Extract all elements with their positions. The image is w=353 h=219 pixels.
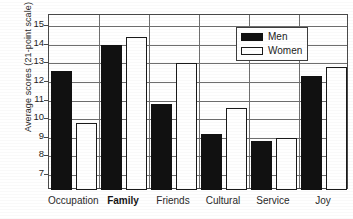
y-tick-label-8: 8 bbox=[26, 149, 44, 159]
y-tick-label-10: 10 bbox=[26, 112, 44, 122]
legend-swatch-women bbox=[241, 47, 263, 55]
group-separator-1 bbox=[99, 15, 100, 188]
x-tick-label-service: Service bbox=[248, 195, 298, 207]
y-tick-label-13: 13 bbox=[26, 56, 44, 66]
y-tick-label-12: 12 bbox=[26, 75, 44, 85]
legend-entry-men: Men bbox=[241, 31, 302, 43]
y-tick-label-15: 15 bbox=[26, 19, 44, 29]
chart-figure: Average scores (21-point scale) Men Wome… bbox=[0, 0, 353, 219]
x-tick-label-friends: Friends bbox=[148, 195, 198, 207]
plot-area: Men Women bbox=[48, 14, 348, 189]
legend: Men Women bbox=[236, 27, 308, 61]
legend-label-men: Men bbox=[268, 32, 287, 42]
group-separator-3 bbox=[199, 15, 200, 188]
legend-swatch-men bbox=[241, 33, 263, 41]
y-tick-label-14: 14 bbox=[26, 38, 44, 48]
x-tick-label-occupation: Occupation bbox=[48, 195, 98, 207]
legend-label-women: Women bbox=[268, 46, 302, 56]
y-tick-label-11: 11 bbox=[26, 94, 44, 104]
legend-entry-women: Women bbox=[241, 45, 302, 57]
x-tick-label-joy: Joy bbox=[298, 195, 348, 207]
y-tick-label-7: 7 bbox=[26, 168, 44, 178]
x-tick-label-cultural: Cultural bbox=[198, 195, 248, 207]
x-tick-label-family: Family bbox=[98, 195, 148, 207]
group-separator-2 bbox=[149, 15, 150, 188]
y-tick-label-9: 9 bbox=[26, 131, 44, 141]
